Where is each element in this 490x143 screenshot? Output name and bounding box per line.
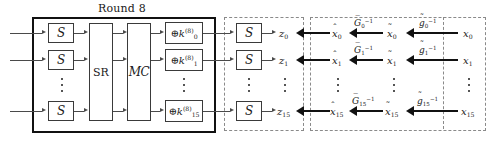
wire-in-row1 <box>10 33 42 34</box>
wire-sr-to-mc-row1 <box>113 33 123 34</box>
ellipsis-z-column <box>283 78 287 92</box>
arrowhead-key-row1 <box>160 30 164 34</box>
ellipsis-sbox-column <box>60 78 64 92</box>
bold-wire-z-row2 <box>304 59 330 61</box>
bold-wire-g-row1 <box>414 32 458 34</box>
output-sbox-row2: S <box>236 50 262 70</box>
wire-in-row3 <box>10 111 42 112</box>
ellipsis-output-sbox-column <box>247 78 251 92</box>
bold-arrowhead-g-row2 <box>406 55 414 65</box>
arrowhead-sr-row2 <box>84 57 88 61</box>
arrowhead-in-row3 <box>42 108 46 112</box>
bold-wire-z-row3 <box>304 110 330 112</box>
bold-arrowhead-z-row3 <box>296 106 304 116</box>
arrowhead-out-sbox-row2 <box>230 57 234 61</box>
key-add-row1-label: ⊕k(8)0 <box>170 27 197 40</box>
output-z-row3: z15 <box>277 107 290 118</box>
ellipsis-input-x-column <box>467 78 471 92</box>
bold-arrowhead-g-row3 <box>406 106 414 116</box>
G-inverse-label-row3: ‾G15−1 <box>352 97 375 108</box>
sbox-row3: S <box>48 101 74 121</box>
G-inverse-label-row2: ‾G1−1 <box>354 46 373 57</box>
key-add-row3: ⊕k(8)15 <box>165 100 203 122</box>
figure-canvas: Round 8 S ⊕k(8)0 S z0 ˆx0 ‾G0−1 ˜x0 <box>0 0 490 143</box>
output-sbox-row3: S <box>236 101 262 121</box>
mixcolumns-label: MC <box>129 65 149 79</box>
shiftrows-label: SR <box>93 66 109 79</box>
bold-wire-g-row3 <box>414 110 458 112</box>
tilde-x-row3: ˜x15 <box>385 107 399 118</box>
tilde-x-row1: ˜x0 <box>387 29 397 40</box>
sbox-row2: S <box>48 50 74 70</box>
arrowhead-key-row2 <box>160 57 164 61</box>
arrowhead-out-sbox-row1 <box>230 30 234 34</box>
bold-wire-G-row1 <box>357 32 383 34</box>
g-inverse-label-row2: ˜g1−1 <box>419 46 437 57</box>
wire-in-row2 <box>10 60 42 61</box>
arrowhead-sr-row3 <box>84 108 88 112</box>
wire-out-row1 <box>262 33 272 34</box>
wire-out-row3 <box>262 111 272 112</box>
hat-x-row2: ˆx1 <box>332 56 342 67</box>
wire-sbox-to-sr-row1 <box>74 33 84 34</box>
output-sbox-row2-label: S <box>245 53 253 67</box>
bold-arrowhead-z-row2 <box>296 55 304 65</box>
output-z-row1: z0 <box>279 29 288 40</box>
output-z-row2: z1 <box>279 56 288 67</box>
ellipsis-tilde-x-column <box>392 78 396 92</box>
G-inverse-label-row1: ‾G0−1 <box>354 19 373 30</box>
wire-out-row2 <box>262 60 272 61</box>
output-sbox-row1-label: S <box>245 26 253 40</box>
wire-mc-to-key-row2 <box>150 60 160 61</box>
arrowhead-out-sbox-row3 <box>230 108 234 112</box>
wire-key-to-out-row2 <box>203 60 230 61</box>
bold-arrowhead-z-row1 <box>296 28 304 38</box>
wire-sr-to-mc-row2 <box>113 60 123 61</box>
sbox-row1: S <box>48 23 74 43</box>
arrowhead-z-row3 <box>272 108 276 112</box>
bold-wire-G-row3 <box>357 110 383 112</box>
wire-mc-to-key-row1 <box>150 33 160 34</box>
input-x-row3: x15 <box>461 107 475 118</box>
round-title: Round 8 <box>32 2 212 15</box>
arrowhead-z-row2 <box>272 57 276 61</box>
sbox-row2-label: S <box>57 53 65 67</box>
hat-x-row3: ˆx15 <box>330 107 344 118</box>
mixcolumns-block: MC <box>127 23 151 121</box>
output-sbox-row1: S <box>236 23 262 43</box>
bold-wire-G-row2 <box>357 59 383 61</box>
input-x-row2: x1 <box>463 56 473 67</box>
tilde-x-row2: ˜x1 <box>387 56 397 67</box>
bold-wire-g-row2 <box>414 59 458 61</box>
ellipsis-hat-x-column <box>336 78 340 92</box>
shiftrows-block: SR <box>89 23 113 121</box>
arrowhead-key-row3 <box>160 108 164 112</box>
output-sbox-row3-label: S <box>245 104 253 118</box>
g-inverse-label-row3: ˜g15−1 <box>417 97 438 108</box>
ellipsis-key-column <box>182 78 186 92</box>
wire-key-to-out-row3 <box>203 111 230 112</box>
sbox-row1-label: S <box>57 26 65 40</box>
wire-key-to-out-row1 <box>203 33 230 34</box>
bold-arrowhead-g-row1 <box>406 28 414 38</box>
key-add-row2-label: ⊕k(8)1 <box>170 54 197 67</box>
wire-sbox-to-sr-row2 <box>74 60 84 61</box>
key-add-row1: ⊕k(8)0 <box>165 22 203 44</box>
wire-sr-to-mc-row3 <box>113 111 123 112</box>
arrowhead-in-row1 <box>42 30 46 34</box>
g-inverse-label-row1: ˜g0−1 <box>419 19 437 30</box>
sbox-row3-label: S <box>57 104 65 118</box>
arrowhead-in-row2 <box>42 57 46 61</box>
input-x-row1: x0 <box>463 29 473 40</box>
key-add-row3-label: ⊕k(8)15 <box>168 105 199 118</box>
bold-wire-z-row1 <box>304 32 330 34</box>
key-add-row2: ⊕k(8)1 <box>165 49 203 71</box>
wire-sbox-to-sr-row3 <box>74 111 84 112</box>
arrowhead-z-row1 <box>272 30 276 34</box>
hat-x-row1: ˆx0 <box>332 29 342 40</box>
wire-mc-to-key-row3 <box>150 111 160 112</box>
arrowhead-sr-row1 <box>84 30 88 34</box>
